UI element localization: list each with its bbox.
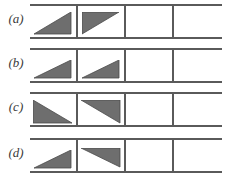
grid-cell[interactable] [126,50,174,81]
grid-cell[interactable] [30,6,78,37]
triangle-bottom-left-icon [33,100,73,124]
row-grid [30,138,222,173]
row-grid [30,48,222,83]
row-grid [30,92,222,127]
triangle-bottom-right-icon [34,60,72,79]
grid-cell[interactable] [126,140,174,171]
figure-row: (a) [0,0,225,43]
grid-cell[interactable] [78,94,126,125]
triangle-bottom-right-icon [34,150,72,169]
grid-cell[interactable] [78,140,126,171]
figure-row: (d) [0,134,225,177]
triangle-top-right-icon [81,148,121,168]
triangle-top-right-icon [81,100,121,124]
grid-cell[interactable] [126,94,174,125]
triangle-grid-figure: (a) (b) [0,0,225,179]
row-label-b: (b) [3,55,29,70]
grid-cell[interactable] [174,50,222,81]
triangle-bottom-right-icon [82,60,120,79]
grid-cell[interactable] [30,50,78,81]
grid-cell[interactable] [78,6,126,37]
grid-cell[interactable] [174,6,222,37]
grid-cell[interactable] [30,94,78,125]
row-grid [30,4,222,39]
triangle-bottom-right-icon [34,12,72,35]
grid-cell[interactable] [174,140,222,171]
row-label-c: (c) [3,99,29,114]
figure-row: (b) [0,44,225,87]
grid-cell[interactable] [126,6,174,37]
row-label-a: (a) [3,11,29,26]
triangle-top-left-icon [82,12,120,35]
row-label-d: (d) [3,145,29,160]
grid-cell[interactable] [78,50,126,81]
figure-row: (c) [0,88,225,131]
grid-cell[interactable] [30,140,78,171]
grid-cell[interactable] [174,94,222,125]
